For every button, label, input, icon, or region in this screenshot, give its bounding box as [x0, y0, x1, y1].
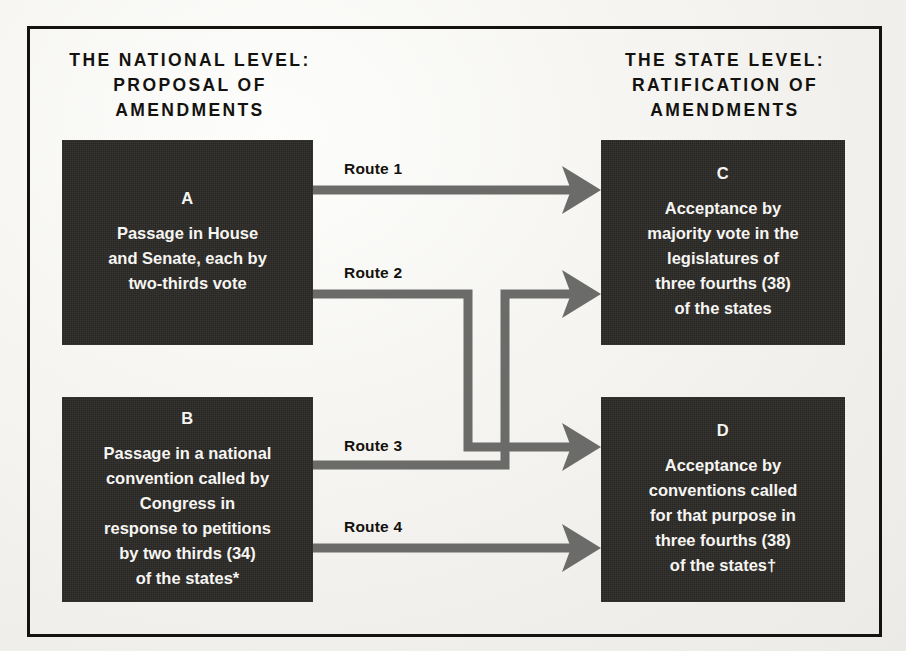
- column-heading-national: THE NATIONAL LEVEL: PROPOSAL OF AMENDMEN…: [45, 48, 335, 123]
- node-b-letter: B: [181, 409, 193, 428]
- node-box-a[interactable]: A Passage in House and Senate, each by t…: [62, 140, 313, 345]
- node-d-letter: D: [717, 421, 729, 440]
- node-box-b[interactable]: B Passage in a national convention calle…: [62, 397, 313, 602]
- route-3-label: Route 3: [344, 437, 402, 455]
- node-a-letter: A: [181, 189, 193, 208]
- node-box-c[interactable]: C Acceptance by majority vote in the leg…: [601, 140, 845, 345]
- figure-canvas: THE NATIONAL LEVEL: PROPOSAL OF AMENDMEN…: [0, 0, 906, 651]
- route-2-label: Route 2: [344, 264, 402, 282]
- node-c-letter: C: [717, 164, 729, 183]
- node-c-text: Acceptance by majority vote in the legis…: [637, 196, 808, 321]
- route-1-label: Route 1: [344, 160, 402, 178]
- column-heading-state: THE STATE LEVEL: RATIFICATION OF AMENDME…: [580, 48, 870, 123]
- node-d-text: Acceptance by conventions called for tha…: [639, 453, 808, 578]
- node-b-text: Passage in a national convention called …: [94, 441, 282, 591]
- route-4-label: Route 4: [344, 518, 402, 536]
- node-a-text: Passage in House and Senate, each by two…: [98, 221, 277, 296]
- node-box-d[interactable]: D Acceptance by conventions called for t…: [601, 397, 845, 602]
